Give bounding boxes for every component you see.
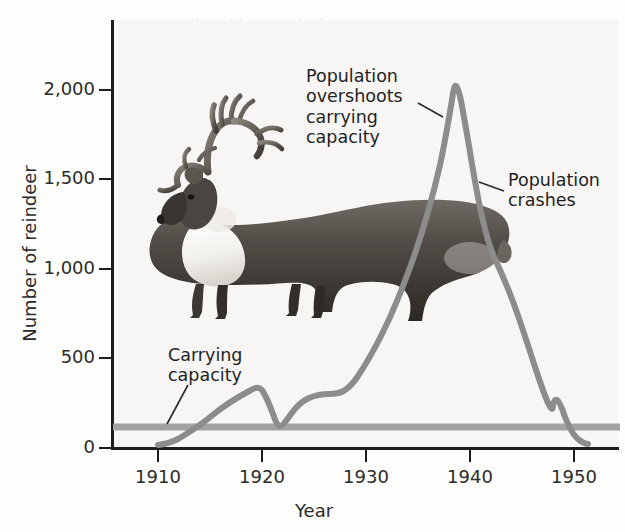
annotation-carrying-capacity: Carrying capacity — [168, 345, 242, 386]
annotation-population-crashes: Population crashes — [508, 170, 600, 211]
annotation-population-overshoots: Population overshoots carrying capacity — [306, 66, 403, 148]
leader-line-crashes — [479, 182, 504, 191]
leader-line-carrying-capacity — [167, 385, 188, 424]
leader-line-overshoot — [418, 103, 443, 117]
reindeer-population-figure: noitalupop eht wolla ehs snoitidnoc elba… — [0, 0, 625, 532]
